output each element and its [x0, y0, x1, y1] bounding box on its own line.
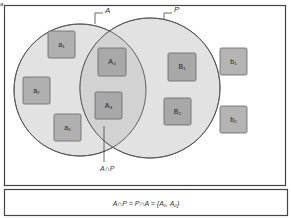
- svg-text:A₄: A₄: [108, 58, 116, 65]
- svg-text:b₂: b₂: [230, 116, 237, 123]
- element-a3: a₃: [54, 114, 81, 141]
- svg-text:a₂: a₂: [33, 87, 40, 94]
- svg-text:B₁: B₁: [178, 63, 186, 70]
- svg-text:b₁: b₁: [230, 58, 237, 65]
- svg-text:a₃: a₃: [64, 124, 71, 131]
- element-B2: B₂: [164, 98, 191, 125]
- element-a2: a₂: [23, 77, 50, 104]
- venn-diagram: a A P A∩P a₁ a₂ a₃ A₄ A₃ B₁ B₂: [0, 0, 291, 218]
- element-A3: A₃: [95, 92, 122, 119]
- element-b1: b₁: [220, 48, 247, 75]
- svg-text:A₃: A₃: [105, 102, 113, 109]
- element-B1: B₁: [168, 53, 196, 81]
- element-A4: A₄: [98, 48, 126, 76]
- element-b2: b₂: [220, 106, 247, 133]
- svg-text:B₂: B₂: [174, 108, 182, 115]
- set-p-label: P: [174, 5, 180, 14]
- formula-text: A∩P = P∩A = {A₁, A₂}: [112, 200, 180, 208]
- element-a1: a₁: [48, 31, 75, 58]
- svg-text:a₁: a₁: [58, 41, 65, 48]
- intersection-label: A∩P: [99, 165, 115, 172]
- set-a-label: A: [104, 6, 110, 15]
- figure-marker: a: [0, 1, 4, 7]
